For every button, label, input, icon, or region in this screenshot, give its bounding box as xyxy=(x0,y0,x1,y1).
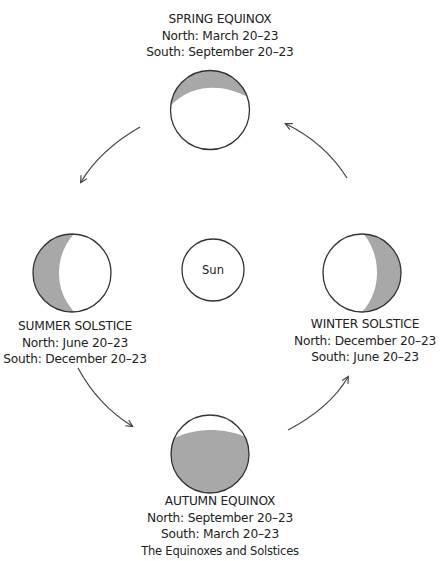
summer-solstice-label: SUMMER SOLSTICE North: June 20–23 South:… xyxy=(3,318,146,368)
summer-solstice-north-dates: North: June 20–23 xyxy=(3,335,146,352)
autumn-equinox-north-dates: North: September 20–23 xyxy=(147,510,293,527)
spring-equinox-north-dates: North: March 20–23 xyxy=(146,28,293,45)
winter-solstice-south-dates: South: June 20–23 xyxy=(294,349,436,366)
summer-solstice-title: SUMMER SOLSTICE xyxy=(3,318,146,335)
sun-label: Sun xyxy=(202,263,224,277)
autumn-equinox-label: AUTUMN EQUINOX North: September 20–23 So… xyxy=(147,493,293,543)
winter-solstice-north-dates: North: December 20–23 xyxy=(294,333,436,350)
arrow-winter-to-spring xyxy=(286,124,347,178)
equinox-solstice-diagram: SPRING EQUINOX North: March 20–23 South:… xyxy=(0,0,440,561)
spring-equinox-south-dates: South: September 20–23 xyxy=(146,44,293,61)
diagram-canvas xyxy=(0,0,440,561)
spring-equinox-globe xyxy=(165,60,255,150)
autumn-equinox-title: AUTUMN EQUINOX xyxy=(147,493,293,510)
winter-solstice-globe xyxy=(323,228,406,318)
arrow-summer-to-autumn xyxy=(78,368,132,426)
arrow-spring-to-summer xyxy=(81,127,140,182)
spring-equinox-title: SPRING EQUINOX xyxy=(146,11,293,28)
autumn-equinox-south-dates: South: March 20–23 xyxy=(147,526,293,543)
winter-solstice-label: WINTER SOLSTICE North: December 20–23 So… xyxy=(294,316,436,366)
autumn-equinox-globe xyxy=(165,415,255,500)
spring-equinox-label: SPRING EQUINOX North: March 20–23 South:… xyxy=(146,11,293,61)
summer-solstice-globe xyxy=(28,228,111,318)
summer-solstice-south-dates: South: December 20–23 xyxy=(3,351,146,368)
diagram-caption: The Equinoxes and Solstices xyxy=(141,544,299,558)
winter-solstice-title: WINTER SOLSTICE xyxy=(294,316,436,333)
arrow-autumn-to-winter xyxy=(288,377,348,430)
